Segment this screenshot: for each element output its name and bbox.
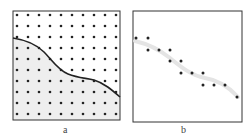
grid-dot (82, 69, 85, 72)
grid-dot (16, 14, 19, 17)
grid-dot (60, 25, 63, 28)
grid-dot (49, 47, 52, 50)
grid-dot (38, 25, 41, 28)
grid-dot (49, 69, 52, 72)
grid-dot (16, 25, 19, 28)
grid-dot (82, 14, 85, 17)
grid-dot (27, 80, 30, 83)
grid-dot (27, 58, 30, 61)
grid-dot (93, 91, 96, 94)
grid-dot (93, 113, 96, 116)
grid-dot (104, 91, 107, 94)
grid-dot (49, 113, 52, 116)
data-point (236, 96, 239, 99)
data-point (180, 72, 183, 75)
grid-dot (82, 113, 85, 116)
data-point (147, 49, 150, 52)
grid-dot (27, 102, 30, 105)
data-point (147, 37, 150, 40)
grid-dot (104, 113, 107, 116)
grid-dot (71, 102, 74, 105)
grid-dot (27, 113, 30, 116)
grid-dot (38, 69, 41, 72)
grid-dot (27, 25, 30, 28)
grid-dot (93, 47, 96, 50)
grid-dot (71, 58, 74, 61)
grid-dot (38, 80, 41, 83)
grid-dot (49, 36, 52, 39)
grid-dot (82, 47, 85, 50)
caption-a: a (63, 124, 67, 135)
grid-dot (104, 80, 107, 83)
data-point (180, 60, 183, 63)
grid-dot (71, 91, 74, 94)
grid-dot (49, 25, 52, 28)
grid-dot (71, 113, 74, 116)
grid-dot (38, 36, 41, 39)
grid-dot (49, 102, 52, 105)
grid-dot (16, 58, 19, 61)
grid-dot (16, 91, 19, 94)
grid-dot (71, 14, 74, 17)
grid-dot (16, 47, 19, 50)
grid-dot (38, 102, 41, 105)
grid-dot (27, 14, 30, 17)
grid-dot (115, 69, 118, 72)
data-point (158, 49, 161, 52)
grid-dot (49, 91, 52, 94)
grid-dot (93, 102, 96, 105)
data-point (191, 72, 194, 75)
grid-dot (38, 14, 41, 17)
grid-dot (60, 47, 63, 50)
grid-dot (16, 102, 19, 105)
data-point (135, 37, 138, 40)
grid-dot (60, 58, 63, 61)
grid-dot (104, 102, 107, 105)
grid-dot (115, 36, 118, 39)
grid-dot (93, 58, 96, 61)
grid-dot (115, 102, 118, 105)
caption-b: b (181, 124, 186, 135)
grid-dot (82, 80, 85, 83)
grid-dot (93, 14, 96, 17)
grid-dot (60, 102, 63, 105)
panel-b-frame (133, 11, 242, 122)
grid-dot (82, 102, 85, 105)
grid-dot (115, 14, 118, 17)
region-below-curve (13, 38, 120, 120)
grid-dot (16, 80, 19, 83)
grid-dot (60, 113, 63, 116)
grid-dot (27, 69, 30, 72)
grid-dot (38, 58, 41, 61)
grid-dot (82, 91, 85, 94)
grid-dot (93, 69, 96, 72)
grid-dot (16, 69, 19, 72)
trend-curve (135, 41, 238, 97)
grid-dot (27, 47, 30, 50)
grid-dot (60, 80, 63, 83)
data-point (169, 60, 172, 63)
grid-dot (104, 25, 107, 28)
grid-dot (93, 36, 96, 39)
grid-dot (16, 113, 19, 116)
grid-dot (82, 36, 85, 39)
grid-dot (27, 91, 30, 94)
data-point (202, 72, 205, 75)
grid-dot (115, 58, 118, 61)
grid-dot (60, 36, 63, 39)
grid-dot (82, 58, 85, 61)
grid-dot (38, 113, 41, 116)
grid-dot (71, 47, 74, 50)
grid-dot (60, 14, 63, 17)
grid-dot (104, 58, 107, 61)
grid-dot (104, 14, 107, 17)
data-point (169, 49, 172, 52)
grid-dot (71, 69, 74, 72)
panel-b (133, 11, 242, 122)
grid-dot (115, 113, 118, 116)
data-point (202, 84, 205, 87)
grid-dot (104, 47, 107, 50)
grid-dot (104, 36, 107, 39)
grid-dot (93, 25, 96, 28)
grid-dot (82, 25, 85, 28)
